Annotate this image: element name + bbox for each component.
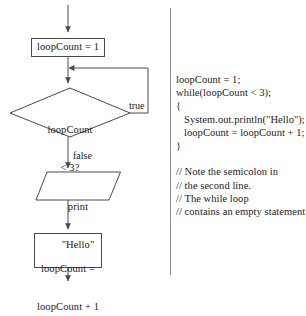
code-line: }	[176, 139, 304, 152]
code-blank-line	[176, 152, 304, 165]
comment-line: // Note the semicolon in	[176, 165, 304, 178]
increment-line-1: loopCount =	[34, 263, 102, 276]
code-line: while(loopCount < 3);	[176, 86, 304, 99]
edge-label-true: true	[129, 100, 145, 111]
edge-label-false: false	[73, 150, 92, 161]
code-line: loopCount = loopCount + 1;	[176, 126, 304, 139]
increment-box-label: loopCount = loopCount + 1	[34, 238, 102, 316]
condition-line-1: loopCount	[30, 124, 110, 137]
comment-line: // contains an empty statement	[176, 205, 304, 218]
code-line: {	[176, 99, 304, 112]
comment-line: // the second line.	[176, 179, 304, 192]
code-line: loopCount = 1;	[176, 73, 304, 86]
comment-line: // The while loop	[176, 192, 304, 205]
condition-line-2: < 3?	[30, 162, 110, 175]
increment-line-2: loopCount + 1	[34, 301, 102, 314]
print-line-1: print	[44, 201, 112, 214]
code-line: System.out.println("Hello");	[176, 113, 304, 126]
init-box-label: loopCount = 1	[31, 41, 105, 54]
code-panel: loopCount = 1; while(loopCount < 3); { S…	[176, 73, 304, 218]
comment-block: // Note the semicolon in // the second l…	[176, 165, 304, 218]
